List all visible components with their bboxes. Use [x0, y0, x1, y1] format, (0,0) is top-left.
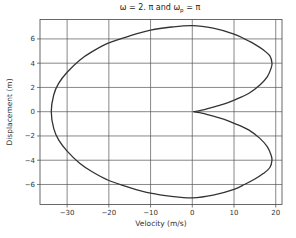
y-tick-label: 0 — [31, 108, 35, 116]
x-axis-ticks: −30−20−1001020 — [60, 205, 280, 217]
x-axis-label: Velocity (m/s) — [135, 219, 186, 228]
x-tick-label: 0 — [190, 209, 194, 217]
x-tick-label: −10 — [143, 209, 158, 217]
y-tick-label: −6 — [25, 181, 36, 189]
x-tick-label: 20 — [271, 209, 280, 217]
chart-title: ω = 2. π and ωp = π — [120, 3, 201, 14]
x-tick-label: 10 — [230, 209, 239, 217]
y-axis-ticks: −6−4−20246 — [25, 35, 40, 189]
y-tick-label: −2 — [25, 132, 35, 140]
y-tick-label: 6 — [31, 35, 36, 43]
y-axis-label: Displacement (m) — [5, 78, 14, 145]
chart-title-main: ω = 2. π and ω — [120, 3, 181, 12]
y-tick-label: 2 — [31, 84, 35, 92]
phase-plot: −30−20−1001020 −6−4−20246 ω = 2. π and ω… — [0, 0, 296, 238]
x-tick-label: −20 — [101, 209, 116, 217]
y-tick-label: 4 — [31, 60, 36, 68]
grid-lines — [40, 20, 282, 205]
chart-title-tail: = π — [184, 3, 201, 12]
x-tick-label: −30 — [60, 209, 75, 217]
y-tick-label: −4 — [25, 157, 36, 165]
